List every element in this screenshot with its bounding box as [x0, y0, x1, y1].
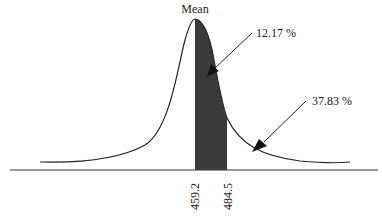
- shaded-area-percent-label: 12.17 %: [256, 26, 296, 40]
- x-tick-upper-value: 484.5: [221, 183, 235, 210]
- shaded-area-region: [195, 19, 227, 170]
- normal-distribution-diagram: Mean 12.17 % 37.83 % 459.2 484.5: [0, 0, 382, 218]
- tail-area-arrow: [252, 101, 306, 152]
- x-tick-mean-value: 459.2: [188, 183, 202, 210]
- tail-area-percent-label: 37.83 %: [312, 94, 352, 108]
- mean-label: Mean: [181, 2, 208, 16]
- shaded-area-arrow: [207, 33, 252, 77]
